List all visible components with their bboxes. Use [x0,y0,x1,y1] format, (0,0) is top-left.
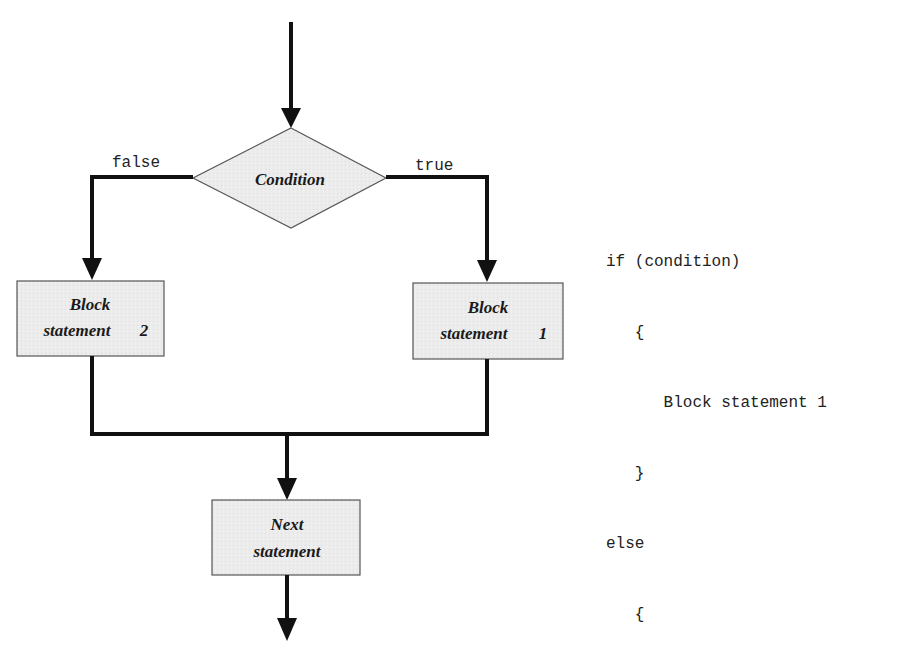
code-line: if (condition) [606,251,827,275]
block2-number: 2 [139,321,149,340]
block2-line1: Block [69,295,111,314]
next-line2: statement [252,542,321,561]
pseudocode-listing: if (condition) { Block statement 1 } els… [606,204,827,663]
false-label: false [112,154,160,172]
true-label: true [415,157,453,175]
block-statement-1-box: Block statement 1 [413,283,563,359]
block1-line2: statement [439,324,508,343]
code-line: else [606,533,827,557]
next-statement-box: Next statement [212,500,360,575]
code-line: } [606,463,827,487]
block-statement-2-box: Block statement 2 [17,281,164,356]
code-line: { [606,322,827,346]
condition-decision: Condition [193,128,386,228]
false-branch-connector [82,177,193,280]
true-branch-connector [386,177,497,282]
code-line: { [606,604,827,628]
block1-number: 1 [539,324,548,343]
merge-connector [92,356,487,500]
exit-arrow [277,575,297,641]
entry-arrow [281,22,301,128]
block2-line2: statement [42,321,111,340]
code-line: Block statement 1 [606,392,827,416]
block1-line1: Block [467,298,509,317]
condition-label: Condition [255,170,325,189]
next-line1: Next [269,515,304,534]
